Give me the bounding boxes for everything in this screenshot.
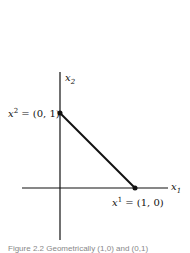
x-axis-sub: 1 — [177, 187, 181, 195]
point-x1-sup: 1 — [118, 196, 122, 204]
point-x1-label: x1 = (1, 0) — [112, 197, 164, 208]
point-x2-coords: = (0, 1) — [21, 108, 59, 119]
y-axis-label: x2 — [65, 73, 75, 86]
x-axis-label: x1 — [171, 182, 181, 195]
segment-x2-to-x1 — [60, 113, 135, 188]
y-axis-sub: 2 — [71, 78, 75, 86]
point-x2-sup: 2 — [14, 107, 18, 115]
point-x1 — [133, 186, 138, 191]
point-x2-label: x2 = (0, 1) — [8, 108, 60, 119]
point-x1-coords: = (1, 0) — [125, 197, 163, 208]
figure-caption: Figure 2.2 Geometrically (1,0) and (0,1) — [8, 244, 148, 253]
